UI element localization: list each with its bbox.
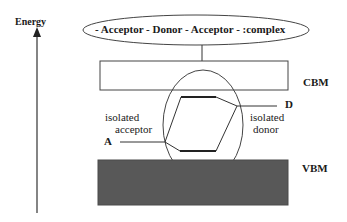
vbm-label: VBM [302,163,328,174]
isolated-donor-line1: isolated [250,112,284,123]
complex-label: - Acceptor - Donor - Acceptor - :complex [95,24,285,35]
vbm-band [98,160,288,205]
donor-marker: D [285,99,293,110]
isolated-acceptor-line2: acceptor [115,124,152,135]
donor-side [216,97,237,151]
cbm-label: CBM [303,77,329,88]
isolated-donor-line2: donor [253,124,279,135]
acceptor-side [165,97,181,151]
acceptor-marker: A [104,136,112,147]
energy-axis-label: Energy [15,17,46,27]
energy-arrowhead-icon [33,27,41,37]
isolated-acceptor-line1: isolated [105,112,139,123]
cbm-band [100,61,288,90]
